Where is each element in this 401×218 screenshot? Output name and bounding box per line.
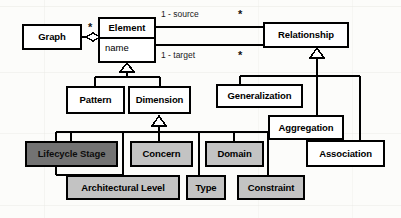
class-box-lifecycle-stage[interactable]: Lifecycle Stage bbox=[25, 141, 118, 167]
class-name-type: Type bbox=[188, 183, 224, 193]
class-box-architectural-level[interactable]: Architectural Level bbox=[66, 175, 180, 200]
class-box-concern[interactable]: Concern bbox=[130, 141, 193, 167]
class-box-type[interactable]: Type bbox=[186, 175, 226, 200]
class-box-domain[interactable]: Domain bbox=[205, 141, 264, 167]
class-box-aggregation[interactable]: Aggregation bbox=[268, 115, 344, 140]
class-box-generalization[interactable]: Generalization bbox=[216, 84, 303, 108]
class-attribute-name: name bbox=[100, 39, 154, 57]
class-box-relationship[interactable]: Relationship bbox=[263, 22, 349, 48]
class-box-constraint[interactable]: Constraint bbox=[237, 175, 305, 200]
class-name-graph: Graph bbox=[24, 32, 80, 42]
class-box-element[interactable]: Element name bbox=[98, 17, 156, 63]
multiplicity-target: * bbox=[238, 50, 242, 61]
class-name-generalization: Generalization bbox=[218, 91, 301, 101]
uml-class-diagram: Graph Element name Relationship Pattern … bbox=[0, 0, 401, 218]
class-box-graph[interactable]: Graph bbox=[22, 24, 82, 50]
class-name-domain: Domain bbox=[207, 149, 262, 159]
class-name-lifecycle-stage: Lifecycle Stage bbox=[27, 149, 116, 159]
multiplicity-source: * bbox=[238, 9, 242, 20]
class-name-dimension: Dimension bbox=[130, 95, 189, 105]
edge-label-source: 1 - source bbox=[161, 10, 199, 19]
class-box-association[interactable]: Association bbox=[306, 140, 385, 167]
class-name-architectural-level: Architectural Level bbox=[68, 183, 178, 193]
class-name-association: Association bbox=[308, 149, 383, 159]
edge-label-target: 1 - target bbox=[161, 51, 195, 60]
class-box-pattern[interactable]: Pattern bbox=[66, 86, 125, 114]
class-name-concern: Concern bbox=[132, 149, 191, 159]
class-box-dimension[interactable]: Dimension bbox=[128, 86, 191, 114]
class-name-aggregation: Aggregation bbox=[270, 123, 342, 133]
multiplicity-graph-element: * bbox=[88, 22, 92, 33]
class-name-constraint: Constraint bbox=[239, 183, 303, 193]
class-name-element: Element bbox=[100, 19, 154, 39]
class-name-pattern: Pattern bbox=[68, 95, 123, 105]
class-name-relationship: Relationship bbox=[265, 30, 347, 40]
